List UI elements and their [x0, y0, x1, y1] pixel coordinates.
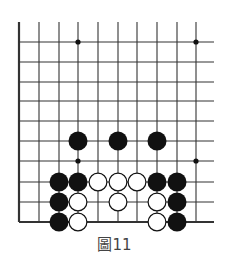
black-stone — [50, 213, 69, 232]
white-stone — [89, 173, 107, 191]
white-stone — [148, 193, 166, 211]
board-grid — [19, 22, 214, 222]
black-stone — [168, 193, 187, 212]
white-stone — [69, 193, 87, 211]
black-stone — [168, 173, 187, 192]
white-stone — [148, 213, 166, 231]
white-stone — [69, 213, 87, 231]
white-stone — [109, 173, 127, 191]
black-stone — [109, 132, 128, 151]
black-stone — [168, 213, 187, 232]
figure-caption: 圖11 — [0, 233, 229, 254]
black-stone — [69, 132, 88, 151]
black-stone — [50, 193, 69, 212]
black-stone — [69, 173, 88, 192]
star-point — [75, 158, 80, 163]
black-stone — [50, 173, 69, 192]
star-point — [75, 39, 80, 44]
go-board-diagram — [0, 0, 229, 232]
black-stone — [148, 132, 167, 151]
star-point — [193, 158, 198, 163]
star-point — [193, 39, 198, 44]
white-stone — [109, 193, 127, 211]
black-stone — [148, 173, 167, 192]
white-stone — [128, 173, 146, 191]
